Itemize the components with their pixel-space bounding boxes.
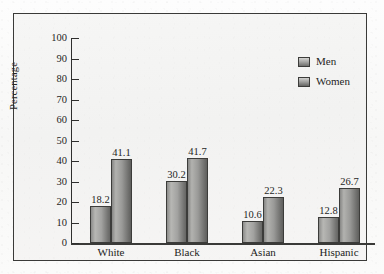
- bar-black-men: 30.2: [166, 181, 187, 243]
- y-tick-label: 90: [57, 54, 68, 64]
- bar-value-label: 41.7: [188, 146, 206, 157]
- bar-value-label: 12.8: [319, 205, 337, 216]
- bar-value-label: 18.2: [91, 194, 109, 205]
- legend-label-men: Men: [316, 56, 336, 67]
- y-axis-labels: 1009080706050403020100: [14, 38, 67, 243]
- bar-white-women: 41.1: [111, 159, 132, 243]
- y-tick-label: 50: [57, 136, 68, 146]
- legend-swatch-men-icon: [298, 57, 310, 67]
- bar-hispanic-men: 12.8: [318, 217, 339, 243]
- y-axis-title: Percentage: [8, 62, 19, 110]
- x-label-white: White: [98, 246, 125, 258]
- bar-white-men: 18.2: [90, 206, 111, 243]
- figure-page: 1009080706050403020100 Percentage 18.241…: [0, 0, 384, 274]
- legend-swatch-women-icon: [298, 77, 310, 87]
- y-tick-label: 10: [57, 218, 68, 228]
- y-tick-mark: [72, 243, 79, 244]
- y-tick-mark: [72, 161, 79, 162]
- y-tick-mark: [72, 182, 79, 183]
- bar-black-women: 41.7: [187, 158, 208, 243]
- bar-value-label: 41.1: [112, 147, 130, 158]
- x-label-hispanic: Hispanic: [319, 246, 358, 258]
- y-tick-label: 0: [62, 238, 67, 248]
- chart-legend: Men Women: [298, 55, 350, 95]
- figure-frame: 1009080706050403020100 Percentage 18.241…: [13, 13, 367, 261]
- y-tick-mark: [72, 120, 79, 121]
- legend-item-women: Women: [298, 75, 350, 88]
- legend-item-men: Men: [298, 55, 350, 68]
- y-tick-label: 40: [57, 156, 68, 166]
- bar-asian-men: 10.6: [242, 221, 263, 243]
- legend-label-women: Women: [316, 76, 350, 87]
- x-label-black: Black: [174, 246, 200, 258]
- y-tick-mark: [72, 100, 79, 101]
- y-tick-mark: [72, 141, 79, 142]
- y-tick-mark: [72, 202, 79, 203]
- y-tick-mark: [72, 223, 79, 224]
- y-tick-mark: [72, 38, 79, 39]
- y-tick-label: 70: [57, 95, 68, 105]
- bar-value-label: 22.3: [264, 185, 282, 196]
- x-axis-line: [71, 243, 375, 245]
- y-tick-mark: [72, 79, 79, 80]
- y-tick-label: 100: [51, 33, 67, 43]
- y-tick-mark: [72, 59, 79, 60]
- bar-hispanic-women: 26.7: [339, 188, 360, 243]
- bar-asian-women: 22.3: [263, 197, 284, 243]
- y-tick-label: 30: [57, 177, 68, 187]
- bar-value-label: 30.2: [167, 169, 185, 180]
- x-label-asian: Asian: [250, 246, 276, 258]
- bar-value-label: 10.6: [243, 209, 261, 220]
- bar-value-label: 26.7: [340, 176, 358, 187]
- y-tick-label: 20: [57, 197, 68, 207]
- y-tick-label: 60: [57, 115, 68, 125]
- y-tick-label: 80: [57, 74, 68, 84]
